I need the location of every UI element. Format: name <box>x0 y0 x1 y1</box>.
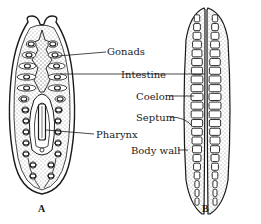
coelom-segment <box>194 15 199 22</box>
segmented-worm-figure-b <box>184 8 230 214</box>
coelom-segment <box>193 32 201 39</box>
coelom-segment <box>210 137 220 144</box>
caption-figure-a: A <box>38 203 45 214</box>
coelom-segment <box>194 163 201 170</box>
coelom-segment <box>210 146 219 153</box>
coelom-segment <box>213 181 217 188</box>
coelom-segment <box>212 172 218 179</box>
diagram-figure: Gonads Coelom Intestine Coelom Septum Ph… <box>0 0 261 224</box>
coelom-segment <box>192 58 203 65</box>
coelom-segment <box>194 172 200 179</box>
coelom-segment <box>210 58 221 65</box>
coelom-segment <box>213 198 217 205</box>
coelom-segment <box>209 111 221 118</box>
coelom-segment <box>194 24 201 31</box>
coelom-segment <box>212 24 219 31</box>
coelom-segment <box>191 85 203 92</box>
coelom-segment <box>195 181 199 188</box>
caption-figure-b: B <box>202 203 209 214</box>
coelom-segment <box>191 93 203 100</box>
label-intestine: Intestine <box>121 69 166 80</box>
label-coelom: Coelom <box>136 91 174 102</box>
coelom-segment <box>192 137 202 144</box>
coelom-segment <box>209 76 221 83</box>
coelom-segment <box>195 198 199 205</box>
coelom-segment <box>195 189 199 196</box>
coelom-segment <box>192 146 201 153</box>
coelom-segment <box>191 76 203 83</box>
coelom-segment <box>191 102 203 109</box>
flatworm-mouth <box>40 148 44 152</box>
coelom-segment <box>192 128 203 135</box>
coelom-segment <box>213 189 217 196</box>
label-septum: Septum <box>136 112 175 123</box>
coelom-segment <box>211 32 219 39</box>
coelom-segment <box>211 154 219 161</box>
coelom-segment <box>209 85 221 92</box>
coelom-segment <box>210 50 220 57</box>
diagram-canvas <box>0 0 261 224</box>
coelom-segment <box>209 93 221 100</box>
label-gonads: Gonads <box>107 46 145 57</box>
label-body-wall: Body wall <box>131 145 181 156</box>
coelom-segment <box>211 41 220 48</box>
coelom-segment <box>212 15 217 22</box>
coelom-segment <box>212 163 219 170</box>
coelom-segment <box>192 50 202 57</box>
coelom-segment <box>191 111 203 118</box>
coelom-segment <box>191 120 202 127</box>
coelom-segment <box>193 154 201 161</box>
coelom-segment <box>193 41 202 48</box>
coelom-segment <box>210 128 221 135</box>
coelom-segment <box>209 102 221 109</box>
coelom-segment <box>209 67 220 74</box>
label-pharynx: Pharynx <box>96 129 138 140</box>
flatworm-figure-a <box>9 16 74 194</box>
coelom-segment <box>209 120 220 127</box>
coelom-segment <box>191 67 202 74</box>
